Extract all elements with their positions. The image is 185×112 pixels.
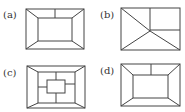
inner-rect [38, 18, 72, 41]
figure-b-label: (b) [100, 9, 114, 20]
corner-edge [72, 9, 84, 18]
figure-panel: (a) (b) (c) (d) [0, 0, 185, 112]
corner-edge [26, 41, 38, 49]
figure-c: (c) [3, 66, 85, 108]
inner-rect [47, 80, 65, 93]
diagonal-edge [121, 8, 150, 31]
corner-edge [121, 98, 133, 106]
inner-rect [133, 75, 168, 98]
diagonal-edge [150, 31, 180, 50]
figure-b: (b) [100, 8, 180, 50]
corner-edge [27, 66, 38, 72]
figure-c-label: (c) [3, 67, 17, 78]
corner-edge [27, 103, 38, 108]
figure-a-label: (a) [3, 9, 17, 20]
corner-edge [75, 66, 85, 72]
figure-a: (a) [3, 9, 84, 49]
diagonal-edge [121, 31, 150, 50]
corner-edge [26, 9, 38, 18]
figure-d: (d) [100, 64, 180, 106]
corner-edge [121, 64, 133, 75]
corner-edge [168, 64, 180, 75]
corner-edge [168, 98, 180, 106]
figure-d-label: (d) [100, 65, 114, 76]
corner-edge [72, 41, 84, 49]
corner-edge [75, 103, 85, 108]
